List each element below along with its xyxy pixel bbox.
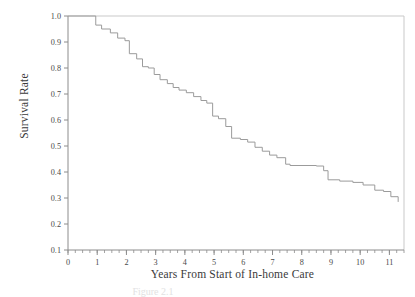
figure-caption: Figure 2.1	[88, 286, 218, 297]
x-tick-label: 8	[300, 258, 304, 267]
x-tick-label: 3	[154, 258, 158, 267]
x-tick-label: 11	[385, 258, 393, 267]
x-tick-label: 5	[212, 258, 216, 267]
plot-area: 0.10.20.30.40.50.60.70.80.91.00123456789…	[51, 12, 404, 267]
y-tick-label: 0.7	[51, 90, 61, 99]
survival-step-line	[68, 16, 398, 202]
x-tick-label: 9	[329, 258, 333, 267]
y-tick-label: 0.6	[51, 116, 61, 125]
y-tick-label: 0.8	[51, 64, 61, 73]
y-tick-label: 0.1	[51, 246, 61, 255]
x-tick-label: 2	[124, 258, 128, 267]
y-tick-label: 0.4	[51, 168, 61, 177]
y-tick-label: 0.5	[51, 142, 61, 151]
y-tick-label: 0.3	[51, 194, 61, 203]
x-tick-label: 7	[270, 258, 274, 267]
y-axis-title: Survival Rate	[18, 36, 30, 176]
y-tick-label: 0.2	[51, 220, 61, 229]
x-tick-label: 0	[66, 258, 70, 267]
x-tick-label: 4	[183, 258, 187, 267]
y-tick-label: 0.9	[51, 38, 61, 47]
x-tick-label: 10	[356, 258, 364, 267]
y-tick-label: 1.0	[51, 12, 61, 21]
x-axis-title: Years From Start of In-home Care	[60, 268, 405, 280]
x-tick-label: 6	[241, 258, 245, 267]
x-tick-label: 1	[95, 258, 99, 267]
y-axis-title-container: Survival Rate	[0, 0, 30, 260]
